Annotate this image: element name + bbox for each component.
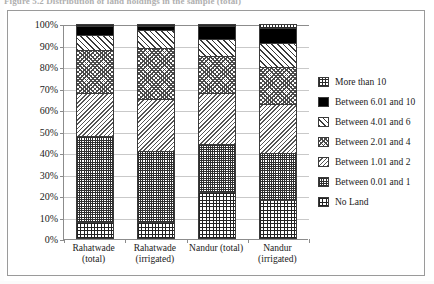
legend-item: Between 1.01 and 2 bbox=[318, 152, 428, 172]
y-axis-tick bbox=[60, 47, 64, 48]
bar-segment bbox=[137, 30, 175, 47]
stacked-bar bbox=[137, 25, 175, 239]
bar-segment bbox=[198, 24, 236, 26]
x-axis-labels: Rahatwade(total)Rahatwade(irrigated)Nand… bbox=[63, 243, 308, 275]
legend-label: More than 10 bbox=[335, 77, 386, 87]
y-axis-tick bbox=[60, 68, 64, 69]
figure-caption-text: Figure 5.2 Distribution of land holdings… bbox=[0, 0, 434, 6]
y-axis-tick-label: 40% bbox=[40, 149, 58, 159]
x-axis-category-label: Nandur(irrigated) bbox=[246, 243, 308, 265]
y-axis-tick-label: 90% bbox=[40, 42, 58, 52]
bar-segment bbox=[198, 56, 236, 93]
bar-segment bbox=[137, 24, 175, 26]
legend-swatch bbox=[318, 197, 329, 207]
bar-segment bbox=[137, 99, 175, 151]
y-axis-tick-label: 10% bbox=[40, 214, 58, 224]
stacked-bar bbox=[198, 25, 236, 239]
chart-legend: More than 10Between 6.01 and 10Between 4… bbox=[318, 72, 428, 212]
legend-item: No Land bbox=[318, 192, 428, 212]
bar-segment bbox=[76, 35, 114, 50]
x-axis-tick bbox=[309, 239, 310, 243]
bar-segment bbox=[198, 192, 236, 239]
figure-caption: Figure 5.2 Distribution of land holdings… bbox=[0, 0, 434, 8]
y-axis-tick-label: 60% bbox=[40, 106, 58, 116]
bar-segment bbox=[259, 200, 297, 239]
y-axis-tick-label: 30% bbox=[40, 171, 58, 181]
stacked-bar bbox=[259, 25, 297, 239]
legend-item: Between 0.01 and 1 bbox=[318, 172, 428, 192]
chart-frame: 0%10%20%30%40%50%60%70%80%90%100% Rahatw… bbox=[7, 10, 425, 276]
y-axis-tick bbox=[60, 25, 64, 26]
bar-segment bbox=[76, 24, 114, 26]
y-axis-tick-label: 80% bbox=[40, 63, 58, 73]
legend-item: Between 2.01 and 4 bbox=[318, 132, 428, 152]
bar-segment bbox=[259, 24, 297, 28]
y-axis-tick bbox=[60, 197, 64, 198]
plot-area: 0%10%20%30%40%50%60%70%80%90%100% bbox=[63, 25, 308, 240]
bar-segment bbox=[137, 48, 175, 100]
x-axis-label-line: Rahatwade bbox=[63, 243, 125, 254]
y-axis-tick bbox=[60, 111, 64, 112]
legend-label: Between 4.01 and 6 bbox=[335, 117, 410, 127]
legend-swatch bbox=[318, 137, 329, 147]
legend-label: Between 2.01 and 4 bbox=[335, 137, 410, 147]
bar-segment bbox=[198, 26, 236, 39]
y-axis-tick-label: 70% bbox=[40, 85, 58, 95]
legend-item: Between 6.01 and 10 bbox=[318, 92, 428, 112]
x-axis-label-line: (irrigated) bbox=[246, 254, 308, 265]
y-axis-tick-label: 100% bbox=[35, 20, 58, 30]
legend-label: Between 0.01 and 1 bbox=[335, 177, 410, 187]
x-axis-label-line: Nandur bbox=[246, 243, 308, 254]
x-axis-label-line: Nandur (total) bbox=[185, 243, 247, 254]
y-axis-tick bbox=[60, 90, 64, 91]
bar-segment bbox=[259, 104, 297, 153]
y-axis-tick bbox=[60, 176, 64, 177]
legend-swatch bbox=[318, 77, 329, 87]
bar-segment bbox=[198, 93, 236, 145]
bar-segment bbox=[76, 222, 114, 239]
y-axis-tick bbox=[60, 154, 64, 155]
x-axis-category-label: Rahatwade(total) bbox=[63, 243, 125, 265]
stacked-bar bbox=[76, 25, 114, 239]
bar-segment bbox=[259, 153, 297, 200]
bar-segment bbox=[259, 28, 297, 43]
bar-segment bbox=[198, 144, 236, 191]
bar-segment bbox=[137, 151, 175, 222]
x-axis-label-line: (total) bbox=[63, 254, 125, 265]
figure-root: Figure 5.2 Distribution of land holdings… bbox=[0, 0, 434, 284]
x-axis-category-label: Nandur (total) bbox=[185, 243, 247, 254]
legend-swatch bbox=[318, 177, 329, 187]
bar-segment bbox=[137, 222, 175, 239]
legend-swatch bbox=[318, 157, 329, 167]
x-axis-label-line: Rahatwade bbox=[124, 243, 186, 254]
legend-item: Between 4.01 and 6 bbox=[318, 112, 428, 132]
y-axis-tick bbox=[60, 133, 64, 134]
bar-segment bbox=[198, 39, 236, 56]
legend-swatch bbox=[318, 117, 329, 127]
y-axis-tick bbox=[60, 219, 64, 220]
x-axis-label-line: (irrigated) bbox=[124, 254, 186, 265]
bar-segment bbox=[137, 26, 175, 30]
legend-label: No Land bbox=[335, 197, 369, 207]
legend-item: More than 10 bbox=[318, 72, 428, 92]
legend-swatch bbox=[318, 97, 329, 107]
scan-edge-left bbox=[0, 0, 4, 284]
x-axis-category-label: Rahatwade(irrigated) bbox=[124, 243, 186, 265]
bar-segment bbox=[259, 43, 297, 67]
legend-label: Between 1.01 and 2 bbox=[335, 157, 410, 167]
bar-segment bbox=[76, 93, 114, 136]
bar-segment bbox=[76, 26, 114, 35]
y-axis-tick-label: 20% bbox=[40, 192, 58, 202]
bar-segment bbox=[76, 50, 114, 93]
y-axis-tick-label: 50% bbox=[40, 128, 58, 138]
bar-segment bbox=[259, 67, 297, 104]
legend-label: Between 6.01 and 10 bbox=[335, 97, 415, 107]
y-axis-tick-label: 0% bbox=[45, 235, 58, 245]
bar-segment bbox=[76, 136, 114, 222]
